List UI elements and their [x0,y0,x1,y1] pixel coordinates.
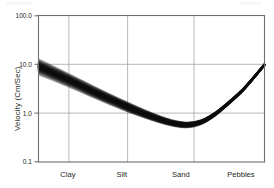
x-category-label-clay: Clay [60,170,75,179]
y-axis-title: Velocity (Cm/Sec) [13,66,22,131]
x-category-label-silt: Silt [117,170,128,179]
x-category-label-pebbles: Pebbles [227,170,255,179]
scan-artifact [240,2,262,5]
y-tick-label-0-1: 0.1 [23,158,32,165]
y-tick-marks [35,16,39,162]
y-tick-label-100: 100.0 [15,12,32,19]
scan-artifact [6,2,32,5]
x-category-label-sand: Sand [172,170,190,179]
y-tick-label-1: 1.0 [23,110,32,117]
velocity-grain-size-chart: 100.0 10.0 1.0 0.1 Velocity (Cm/Sec) Cla… [0,0,274,188]
chart-figure: 100.0 10.0 1.0 0.1 Velocity (Cm/Sec) Cla… [0,0,274,188]
